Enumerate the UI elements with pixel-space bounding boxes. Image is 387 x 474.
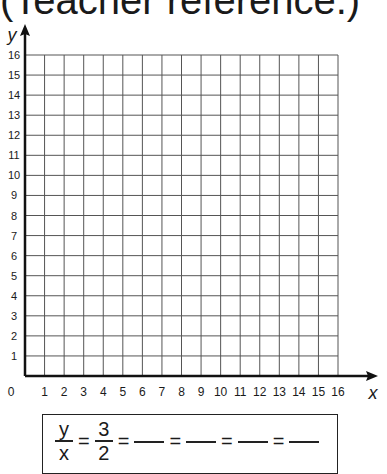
y-tick-label: 3 xyxy=(11,310,17,322)
axes xyxy=(20,24,378,381)
x-tick-label: 12 xyxy=(253,385,267,399)
answer-blank[interactable] xyxy=(186,441,216,443)
equals-sign: = xyxy=(169,430,181,453)
x-tick-label: 8 xyxy=(178,385,185,399)
answer-blank[interactable] xyxy=(134,441,164,443)
y-tick-label: 7 xyxy=(11,230,17,242)
fraction-given: 3 2 xyxy=(95,419,113,463)
equals-sign: = xyxy=(273,430,285,453)
x-tick-label: 1 xyxy=(41,385,48,399)
equals-sign: = xyxy=(221,430,233,453)
x-tick-label: 14 xyxy=(292,385,306,399)
y-tick-label: 15 xyxy=(8,69,20,81)
y-tick-label: 13 xyxy=(8,109,20,121)
y-tick-label: 10 xyxy=(8,169,20,181)
tick-labels: 0123456789101112131415161234567891011121… xyxy=(6,25,379,403)
y-tick-label: 2 xyxy=(11,330,17,342)
x-tick-label: 10 xyxy=(214,385,228,399)
fraction-denominator: x xyxy=(57,443,71,463)
x-axis-label: x xyxy=(368,383,379,403)
grid-lines xyxy=(25,55,338,376)
y-tick-label: 11 xyxy=(8,149,19,161)
y-tick-label: 4 xyxy=(11,290,17,302)
y-tick-label: 16 xyxy=(8,49,20,61)
ratio-equation: y x = 3 2 ==== xyxy=(55,419,319,463)
y-tick-label: 12 xyxy=(8,129,20,141)
x-tick-label: 6 xyxy=(139,385,146,399)
fraction-y-over-x: y x xyxy=(55,419,73,463)
x-tick-label: 9 xyxy=(198,385,205,399)
answer-blank[interactable] xyxy=(238,441,268,443)
y-tick-label: 1 xyxy=(11,350,17,362)
coordinate-grid: 0123456789101112131415161234567891011121… xyxy=(0,0,387,414)
ratio-box: y x = 3 2 ==== xyxy=(42,414,338,474)
x-tick-label: 3 xyxy=(80,385,87,399)
y-tick-label: 8 xyxy=(11,210,17,222)
x-tick-label: 15 xyxy=(312,385,326,399)
answer-blanks: ==== xyxy=(113,430,320,453)
fraction-denominator: 2 xyxy=(96,443,111,463)
fraction-numerator: 3 xyxy=(96,419,111,439)
x-tick-label: 2 xyxy=(61,385,68,399)
x-tick-label: 5 xyxy=(119,385,126,399)
y-tick-label: 5 xyxy=(11,270,17,282)
equals-sign: = xyxy=(118,430,130,453)
x-tick-label: 4 xyxy=(100,385,107,399)
x-tick-label: 13 xyxy=(273,385,287,399)
answer-blank[interactable] xyxy=(289,441,319,443)
y-tick-label: 14 xyxy=(8,89,20,101)
fraction-numerator: y xyxy=(57,419,71,439)
x-tick-label: 16 xyxy=(331,385,345,399)
y-axis-label: y xyxy=(6,25,18,45)
x-tick-label: 11 xyxy=(234,385,247,399)
y-tick-label: 9 xyxy=(11,189,17,201)
x-tick-label: 7 xyxy=(159,385,166,399)
y-tick-label: 6 xyxy=(11,250,17,262)
equals-sign: = xyxy=(78,430,90,453)
origin-label: 0 xyxy=(8,385,15,399)
